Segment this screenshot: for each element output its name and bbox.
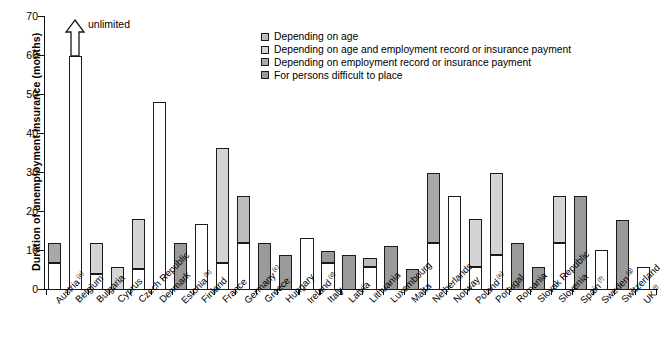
x-axis-category-labels: Austria (a)BelgiumBulgariaCyprusCzech Re…	[0, 0, 668, 364]
chart-container: Duration of unemployment insurance (mont…	[0, 0, 668, 364]
x-axis-category-label: Latvia	[346, 279, 372, 305]
